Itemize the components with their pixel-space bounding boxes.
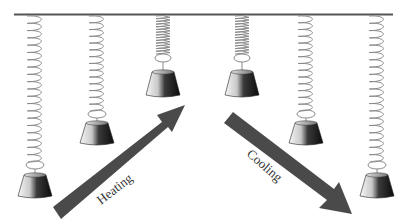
weight bbox=[225, 72, 259, 97]
spring-coil bbox=[88, 16, 106, 121]
weight-top bbox=[86, 121, 108, 125]
spring-weight-3 bbox=[146, 15, 180, 97]
spring-weight-1 bbox=[18, 16, 52, 198]
weight-top bbox=[366, 173, 388, 177]
weight bbox=[360, 175, 394, 198]
spring-coil bbox=[155, 15, 171, 70]
spring-weight-2 bbox=[80, 16, 114, 145]
weight-top bbox=[24, 173, 46, 177]
weight-top bbox=[295, 121, 317, 125]
cooling-arrow bbox=[224, 112, 352, 214]
spring-coil bbox=[297, 16, 315, 121]
spring-thermal-diagram: Heating Cooling bbox=[0, 0, 407, 224]
weight-top bbox=[152, 70, 174, 74]
spring-coil bbox=[234, 15, 250, 70]
weight bbox=[18, 175, 52, 198]
spring-weight-5 bbox=[289, 16, 323, 145]
spring-weight-6 bbox=[360, 16, 394, 198]
heating-arrow bbox=[53, 105, 185, 219]
spring-weight-4 bbox=[225, 15, 259, 97]
spring-coil bbox=[368, 16, 386, 173]
spring-coil bbox=[26, 16, 44, 173]
weight-top bbox=[231, 70, 253, 74]
weight bbox=[80, 123, 114, 145]
weight bbox=[289, 123, 323, 145]
weight bbox=[146, 72, 180, 97]
